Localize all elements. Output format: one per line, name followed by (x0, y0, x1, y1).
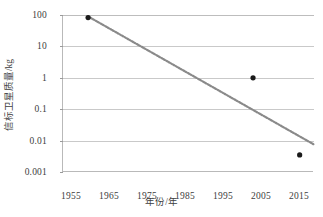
data-point (86, 15, 91, 20)
trend-line (88, 16, 314, 144)
plot-area: 100 10 1 0.1 0.01 0.001 1955 1965 1975 1… (62, 15, 313, 172)
data-series-layer (63, 15, 314, 172)
scatter-points (86, 15, 303, 158)
y-tick-label-100: 100 (0, 10, 47, 20)
y-axis-title-wrap: 信标卫星质量/kg (0, 0, 16, 190)
y-axis-title: 信标卫星质量/kg (1, 15, 15, 175)
data-point (250, 75, 255, 80)
y-tick-label-0.01: 0.01 (0, 136, 47, 146)
y-tick-mark-0.001 (60, 172, 63, 173)
y-tick-label-0.1: 0.1 (0, 104, 47, 114)
chart-figure: 信标卫星质量/kg 100 10 1 0.1 0.01 0.001 1955 1… (0, 0, 323, 217)
y-tick-label-10: 10 (0, 41, 47, 51)
trendline-series (88, 16, 314, 144)
y-tick-label-0.001: 0.001 (0, 167, 47, 177)
y-tick-label-1: 1 (0, 73, 47, 83)
data-point (297, 152, 302, 157)
x-axis-title: 年份/年 (0, 194, 323, 208)
